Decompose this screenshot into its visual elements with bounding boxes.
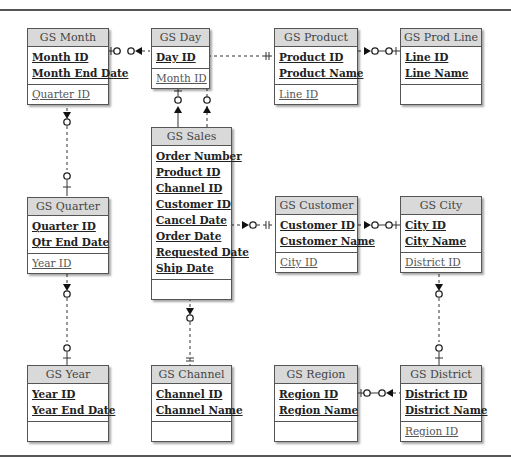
entity-gs-city[interactable]: GS City City ID City Name District ID [400, 196, 482, 273]
rel-quarter-year [63, 268, 71, 366]
key-field: Channel ID [156, 180, 227, 196]
key-field: Customer Name [280, 233, 353, 249]
key-field: Product ID [156, 164, 227, 180]
key-field: Channel Name [156, 402, 227, 418]
key-field: Year ID [32, 386, 104, 402]
entity-title: GS Day [152, 29, 209, 47]
key-field: City ID [405, 217, 477, 233]
entity-title: GS Year [28, 366, 108, 384]
key-field: District ID [405, 386, 477, 402]
entity-gs-quarter[interactable]: GS Quarter Quarter ID Qtr End Date Year … [27, 197, 109, 274]
rel-customer-city [358, 221, 400, 229]
key-field: Product Name [279, 65, 353, 81]
attr-field: Year ID [32, 255, 104, 272]
entity-gs-year[interactable]: GS Year Year ID Year End Date [27, 365, 109, 442]
rel-product-sales [203, 52, 272, 127]
entity-gs-customer[interactable]: GS Customer Customer ID Customer Name Ci… [275, 196, 358, 273]
entity-title: GS Month [28, 29, 108, 47]
entity-title: GS Customer [276, 197, 357, 215]
entity-gs-sales[interactable]: GS Sales Order Number Product ID Channel… [151, 127, 232, 300]
key-field: District Name [405, 402, 477, 418]
rel-month-quarter [63, 96, 71, 196]
entity-gs-region[interactable]: GS Region Region ID Region Name [274, 365, 358, 442]
entity-gs-month[interactable]: GS Month Month ID Month End Date Quarter… [27, 28, 109, 105]
entity-gs-prod-line[interactable]: GS Prod Line Line ID Line Name [400, 28, 482, 105]
entity-title: GS Quarter [28, 198, 108, 216]
entity-title: GS City [401, 197, 481, 215]
attr-field: Line ID [279, 86, 353, 103]
entity-gs-district[interactable]: GS District District ID District Name Re… [400, 365, 482, 442]
key-field: Customer ID [156, 196, 227, 212]
key-field: Quarter ID [32, 218, 104, 234]
rel-sales-customer [231, 221, 276, 229]
key-field: Month ID [32, 49, 104, 65]
rel-sales-channel [186, 292, 194, 366]
key-field: Year End Date [32, 402, 104, 418]
key-field: Qtr End Date [32, 234, 104, 250]
key-field: Line ID [405, 49, 477, 65]
entity-title: GS Prod Line [401, 29, 481, 47]
attr-field: District ID [405, 254, 477, 271]
key-field: City Name [405, 233, 477, 249]
key-field: Customer ID [280, 217, 353, 233]
entity-title: GS District [401, 366, 481, 384]
rel-month-day [108, 47, 150, 55]
rel-city-district [435, 268, 443, 366]
key-field: Month End Date [32, 65, 104, 81]
key-field: Line Name [405, 65, 477, 81]
entity-gs-day[interactable]: GS Day Day ID Month ID [151, 28, 210, 89]
entity-title: GS Product [275, 29, 357, 47]
entity-title: GS Sales [152, 128, 231, 146]
entity-gs-channel[interactable]: GS Channel Channel ID Channel Name [151, 365, 232, 442]
entity-title: GS Region [275, 366, 357, 384]
key-field: Region Name [279, 402, 353, 418]
key-field: Cancel Date [156, 212, 227, 228]
key-field: Order Number [156, 148, 227, 164]
key-field: Product ID [279, 49, 353, 65]
rel-region-district [358, 389, 402, 397]
attr-field: Region ID [405, 423, 477, 440]
key-field: Requested Date [156, 244, 227, 260]
key-field: Order Date [156, 228, 227, 244]
attr-field: City ID [280, 254, 353, 271]
entity-gs-product[interactable]: GS Product Product ID Product Name Line … [274, 28, 358, 105]
key-field: Day ID [156, 49, 205, 65]
entity-title: GS Channel [152, 366, 231, 384]
key-field: Channel ID [156, 386, 227, 402]
rel-product-prodline [358, 47, 400, 55]
key-field: Ship Date [156, 260, 227, 276]
attr-field: Quarter ID [32, 86, 104, 103]
key-field: Region ID [279, 386, 353, 402]
attr-field: Month ID [156, 70, 205, 87]
